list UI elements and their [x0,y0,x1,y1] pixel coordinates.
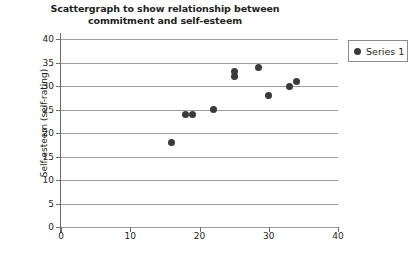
data-point [265,92,272,99]
y-tick-25 [56,110,61,111]
y-tick-label-5: 5 [28,200,54,209]
plot-area [61,39,338,227]
data-point [210,106,217,113]
y-tick-label-0: 0 [28,223,54,232]
gridline-y-40 [61,39,338,40]
y-tick-label-35: 35 [28,59,54,68]
data-point [293,78,300,85]
x-tick-label-0: 0 [46,232,76,241]
data-point [286,83,293,90]
data-point [189,111,196,118]
y-tick-label-20: 20 [28,129,54,138]
y-tick-label-25: 25 [28,106,54,115]
data-point [255,64,262,71]
y-tick-30 [56,86,61,87]
data-point [168,139,175,146]
x-tick-label-40: 40 [323,232,353,241]
gridline-y-25 [61,110,338,111]
y-tick-label-30: 30 [28,82,54,91]
y-tick-40 [56,39,61,40]
y-tick-5 [56,204,61,205]
y-tick-label-15: 15 [28,153,54,162]
gridline-y-35 [61,63,338,64]
x-tick-label-20: 20 [185,232,215,241]
gridline-y-15 [61,157,338,158]
y-tick-20 [56,133,61,134]
y-tick-35 [56,63,61,64]
y-tick-15 [56,157,61,158]
y-tick-10 [56,180,61,181]
legend-label-series-1: Series 1 [366,46,404,57]
chart-legend[interactable]: Series 1 [348,40,408,62]
x-tick-label-30: 30 [254,232,284,241]
y-tick-label-40: 40 [28,35,54,44]
y-tick-label-10: 10 [28,176,54,185]
gridline-y-30 [61,86,338,87]
x-tick-label-10: 10 [115,232,145,241]
gridline-y-5 [61,204,338,205]
scatter-chart: Scattergraph to show relationship betwee… [0,0,410,259]
gridline-y-20 [61,133,338,134]
gridline-y-10 [61,180,338,181]
legend-marker-icon [354,48,361,55]
